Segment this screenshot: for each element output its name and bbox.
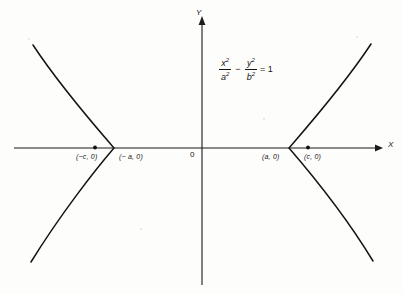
hyperbola-right-branch xyxy=(289,44,373,261)
y-axis-arrowhead xyxy=(199,16,206,25)
scan-speckle xyxy=(263,118,265,120)
label-focus-left: (−c, 0) xyxy=(76,153,97,160)
scan-speckle xyxy=(356,36,358,38)
equation-numerator-right: y2 xyxy=(245,57,257,70)
scan-speckle xyxy=(140,228,142,230)
focus-right-dot xyxy=(306,146,310,150)
focus-left-dot xyxy=(93,146,97,150)
label-vertex-left: (− a, 0) xyxy=(119,153,143,160)
equation-denominator-left: a2 xyxy=(219,70,231,82)
hyperbola-left-branch xyxy=(31,45,114,262)
plot-canvas xyxy=(0,0,403,294)
label-vertex-right: (a, 0) xyxy=(262,153,280,160)
x-axis-arrowhead xyxy=(375,145,383,152)
scan-speckle xyxy=(28,38,30,40)
origin-label: 0 xyxy=(190,150,194,159)
equation-right-hand-side: = 1 xyxy=(260,65,273,74)
hyperbola-figure: Y X 0 (−c, 0) (− a, 0) (a, 0) (c, 0) x2 … xyxy=(0,0,403,294)
equation-fraction-left: x2 a2 xyxy=(219,57,231,82)
equation-denominator-right: b2 xyxy=(245,70,257,82)
hyperbola-equation: x2 a2 − y2 b2 = 1 xyxy=(219,57,273,82)
equation-numerator-left: x2 xyxy=(219,57,231,70)
equation-fraction-right: y2 b2 xyxy=(245,57,257,82)
label-focus-right: (c, 0) xyxy=(304,153,321,160)
equation-operator: − xyxy=(234,65,241,74)
x-axis-label: X xyxy=(388,140,394,149)
y-axis-label: Y xyxy=(196,8,202,17)
